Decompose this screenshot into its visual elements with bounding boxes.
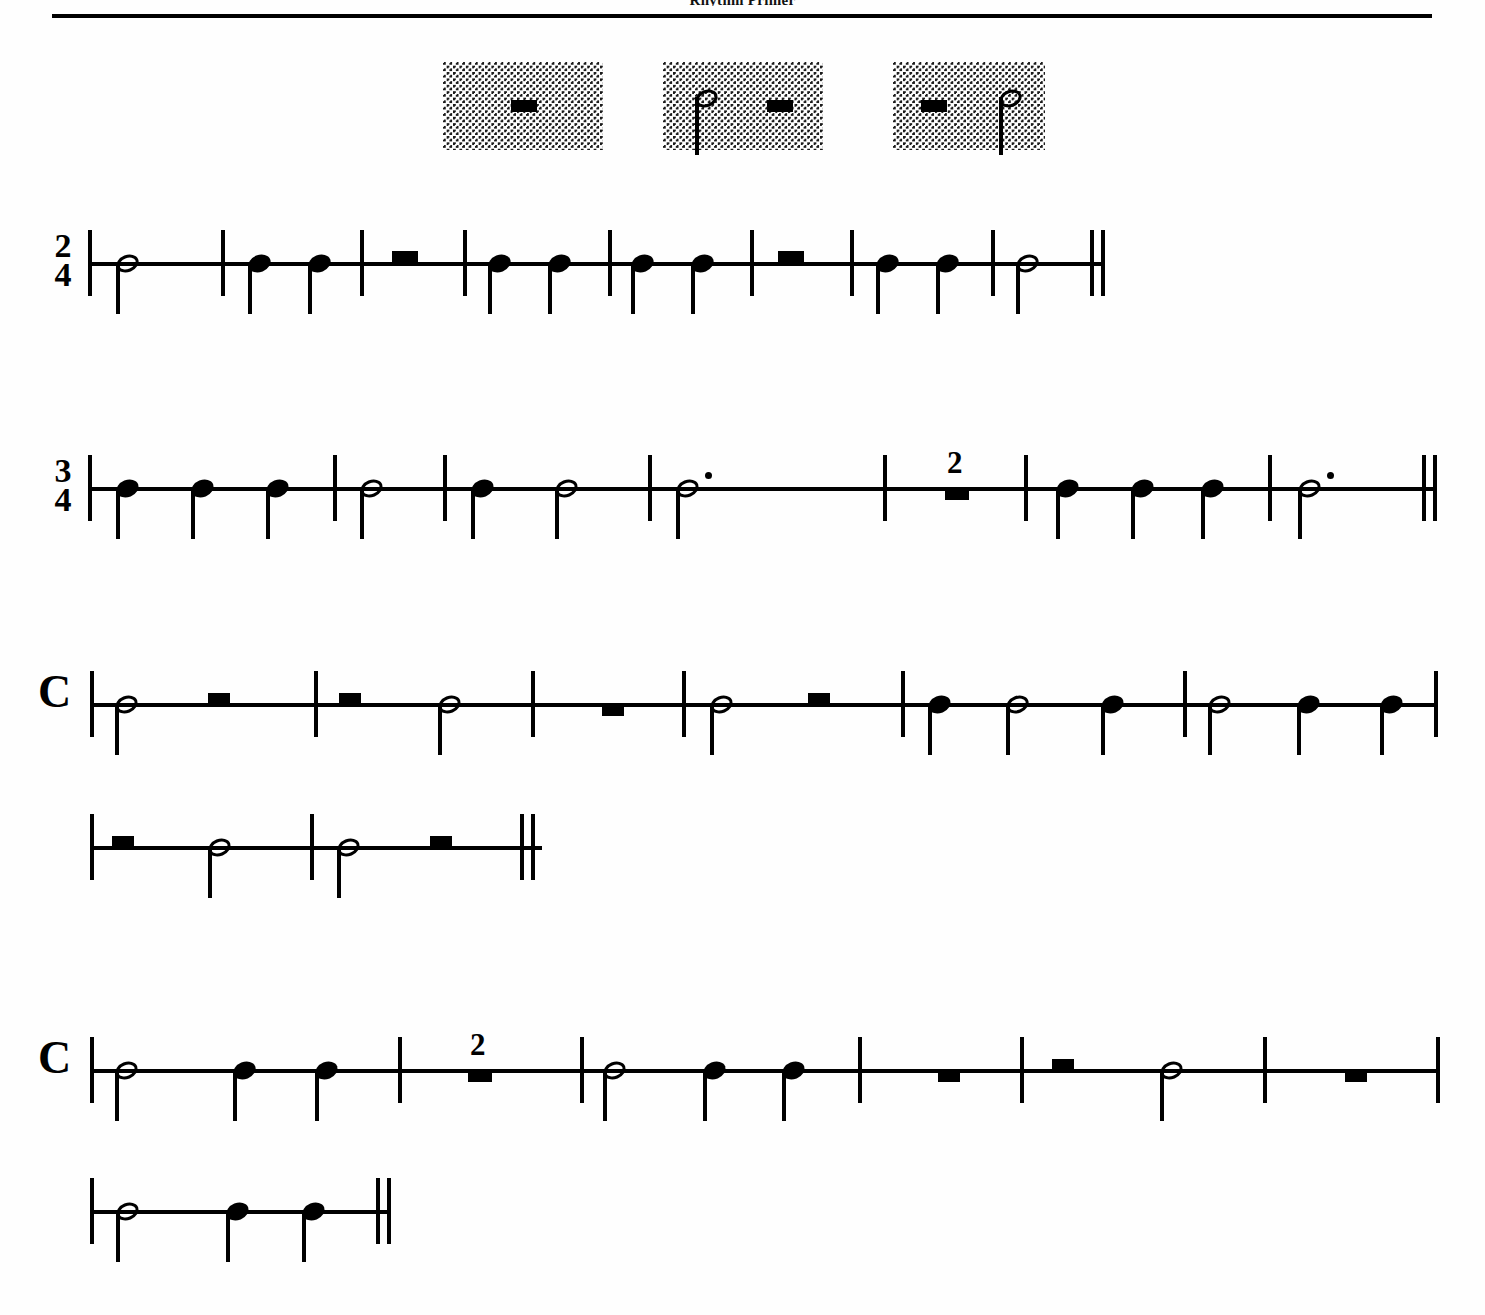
- final-barline: [376, 1178, 392, 1244]
- note-stem: [1297, 703, 1301, 755]
- half-rest-glyph: [511, 100, 537, 112]
- final-barline: [1090, 230, 1106, 296]
- barline: [1268, 455, 1272, 521]
- barline: [1183, 671, 1187, 737]
- barline: [333, 455, 337, 521]
- barline: [1024, 455, 1028, 521]
- page-header: Rhythm Primer: [0, 0, 1485, 30]
- staff-line: [88, 487, 1436, 491]
- common-time-symbol: C: [38, 1035, 71, 1081]
- header-rule: [52, 14, 1432, 18]
- barline: [991, 230, 995, 296]
- note-stem: [337, 846, 341, 898]
- barline: [850, 230, 854, 296]
- barline: [398, 1037, 402, 1103]
- note-stem: [248, 262, 252, 314]
- staff-line: [90, 1069, 1440, 1073]
- whole-rest: [1345, 1072, 1367, 1082]
- barline: [1020, 1037, 1024, 1103]
- note-stem: [999, 97, 1003, 155]
- note-stem: [555, 487, 559, 539]
- note-stem: [782, 1069, 786, 1121]
- multi-measure-rest-bar: [945, 489, 969, 500]
- half-rest: [339, 693, 361, 703]
- note-stem: [471, 487, 475, 539]
- note-stem: [488, 262, 492, 314]
- note-stem: [360, 487, 364, 539]
- note-stem: [1016, 262, 1020, 314]
- half-rest-glyph: [767, 100, 793, 112]
- staff-line: [90, 703, 1438, 707]
- half-rest: [112, 836, 134, 846]
- note-stem: [1298, 487, 1302, 539]
- time-signature-denominator: 4: [46, 260, 80, 289]
- time-signature: 24: [46, 231, 80, 289]
- final-barline-thick: [1433, 455, 1437, 521]
- barline: [750, 230, 754, 296]
- note-stem: [936, 262, 940, 314]
- common-time-symbol: C: [38, 669, 71, 715]
- note-stem: [710, 703, 714, 755]
- barline: [580, 1037, 584, 1103]
- barline: [90, 671, 94, 737]
- time-signature: 34: [46, 456, 80, 514]
- half-rest: [392, 251, 418, 262]
- half-rest: [430, 836, 452, 846]
- note-stem: [208, 846, 212, 898]
- barline: [88, 455, 92, 521]
- final-barline-thin: [520, 814, 524, 880]
- barline: [858, 1037, 862, 1103]
- barline: [360, 230, 364, 296]
- barline: [314, 671, 318, 737]
- note-stem: [876, 262, 880, 314]
- barline: [883, 455, 887, 521]
- note-stem: [226, 1210, 230, 1262]
- note-stem: [1006, 703, 1010, 755]
- example-box-3: [893, 62, 1045, 150]
- augmentation-dot: [705, 472, 712, 479]
- note-stem: [548, 262, 552, 314]
- note-stem: [928, 703, 932, 755]
- half-rest: [208, 693, 230, 703]
- barline: [531, 671, 535, 737]
- note-stem: [233, 1069, 237, 1121]
- half-rest: [1052, 1059, 1074, 1069]
- note-stem: [676, 487, 680, 539]
- barline: [608, 230, 612, 296]
- note-stem: [691, 262, 695, 314]
- multi-measure-rest-bar: [468, 1071, 492, 1082]
- half-rest: [808, 693, 830, 703]
- whole-rest: [602, 706, 624, 716]
- multi-measure-rest-count: 2: [947, 447, 963, 478]
- final-barline-thin: [376, 1178, 380, 1244]
- barline: [90, 1037, 94, 1103]
- time-signature-denominator: 4: [46, 485, 80, 514]
- note-stem: [631, 262, 635, 314]
- note-stem: [116, 487, 120, 539]
- note-stem: [302, 1210, 306, 1262]
- note-stem: [695, 97, 699, 155]
- note-stem: [115, 703, 119, 755]
- barline: [443, 455, 447, 521]
- barline: [310, 814, 314, 880]
- barline: [463, 230, 467, 296]
- note-stem: [315, 1069, 319, 1121]
- final-barline: [1422, 455, 1438, 521]
- note-stem: [438, 703, 442, 755]
- example-box-2: [663, 62, 823, 150]
- note-stem: [116, 1210, 120, 1262]
- half-rest: [778, 251, 804, 262]
- half-rest-glyph: [921, 100, 947, 112]
- note-stem: [1380, 703, 1384, 755]
- multi-measure-rest-count: 2: [470, 1029, 486, 1060]
- note-stem: [703, 1069, 707, 1121]
- note-stem: [266, 487, 270, 539]
- final-barline-thick: [531, 814, 535, 880]
- note-stem: [603, 1069, 607, 1121]
- barline: [1436, 1037, 1440, 1103]
- note-stem: [1056, 487, 1060, 539]
- note-stem: [1131, 487, 1135, 539]
- whole-rest: [938, 1072, 960, 1082]
- note-stem: [116, 262, 120, 314]
- barline: [648, 455, 652, 521]
